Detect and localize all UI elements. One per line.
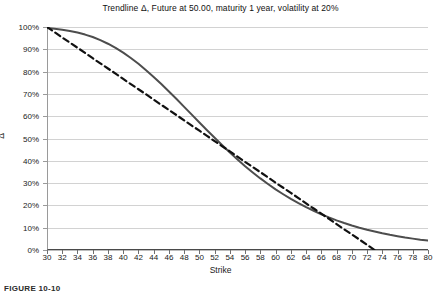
x-axis-tick-label: 38 xyxy=(104,253,113,262)
x-axis-tick-label: 34 xyxy=(73,253,82,262)
x-axis-tick-label: 78 xyxy=(408,253,417,262)
x-axis-tick-label: 48 xyxy=(180,253,189,262)
x-axis-tick-label: 46 xyxy=(164,253,173,262)
figure-caption: FIGURE 10-10 xyxy=(4,284,61,292)
y-axis-labels: 0%10%20%30%40%50%60%70%80%90%100% xyxy=(0,27,44,250)
y-axis-tick-label: 100% xyxy=(19,23,39,32)
y-axis-tick-label: 20% xyxy=(23,201,39,210)
x-axis-tick-label: 36 xyxy=(88,253,97,262)
x-axis-tick-label: 66 xyxy=(317,253,326,262)
y-axis-tick-label: 90% xyxy=(23,45,39,54)
series-line-trendline xyxy=(47,27,375,250)
chart-container: Trendline Δ, Future at 50.00, maturity 1… xyxy=(0,0,441,292)
y-axis-tick-label: 70% xyxy=(23,89,39,98)
x-axis-tick-label: 52 xyxy=(210,253,219,262)
y-axis-tick-label: 0% xyxy=(27,246,39,255)
gridline xyxy=(48,250,428,251)
y-axis-tick-label: 40% xyxy=(23,156,39,165)
x-axis-tick-label: 44 xyxy=(149,253,158,262)
x-axis-tick-label: 54 xyxy=(225,253,234,262)
x-axis-tick-label: 56 xyxy=(241,253,250,262)
x-axis-tick-label: 40 xyxy=(119,253,128,262)
chart-title: Trendline Δ, Future at 50.00, maturity 1… xyxy=(0,3,441,13)
x-axis-tick-label: 58 xyxy=(256,253,265,262)
x-axis-tick-label: 60 xyxy=(271,253,280,262)
y-axis-tick-label: 50% xyxy=(23,134,39,143)
x-axis-tick-label: 42 xyxy=(134,253,143,262)
x-axis-title: Strike xyxy=(0,265,441,275)
x-axis-tick-label: 80 xyxy=(424,253,433,262)
x-axis-tick-label: 50 xyxy=(195,253,204,262)
series-line-delta xyxy=(47,28,428,241)
x-axis-tick-label: 64 xyxy=(302,253,311,262)
x-axis-tick-label: 70 xyxy=(347,253,356,262)
x-axis-tick-label: 72 xyxy=(363,253,372,262)
x-axis-tick-label: 74 xyxy=(378,253,387,262)
x-axis-tick-label: 62 xyxy=(286,253,295,262)
x-axis-tick-label: 32 xyxy=(58,253,67,262)
y-axis-tick-label: 30% xyxy=(23,179,39,188)
x-axis-tick-label: 30 xyxy=(43,253,52,262)
y-axis-tick-label: 10% xyxy=(23,223,39,232)
y-axis-tick-label: 80% xyxy=(23,67,39,76)
x-axis-tick-label: 68 xyxy=(332,253,341,262)
x-axis-tick-label: 76 xyxy=(393,253,402,262)
y-axis-tick-label: 60% xyxy=(23,112,39,121)
data-series-layer xyxy=(47,27,428,250)
